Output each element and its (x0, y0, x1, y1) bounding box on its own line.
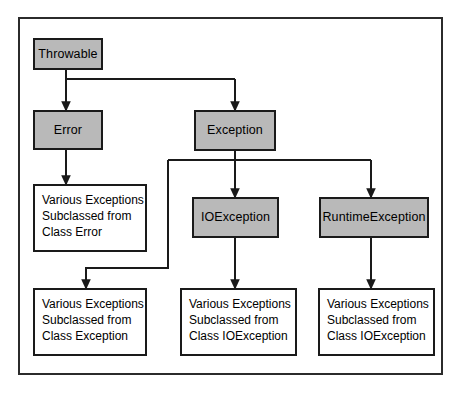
node-throwable-label: Throwable (38, 47, 97, 62)
node-runtimeexception[interactable]: RuntimeException (319, 197, 429, 238)
note-runtimeexception-line-2: Subclassed from (327, 313, 429, 329)
node-error[interactable]: Error (33, 110, 103, 150)
note-runtimeexception-line-1: Various Exceptions (327, 297, 429, 313)
node-throwable[interactable]: Throwable (33, 38, 103, 70)
node-exception[interactable]: Exception (194, 110, 276, 151)
note-exception-line-2: Subclassed from (42, 313, 144, 329)
note-exception-line-1: Various Exceptions (42, 297, 144, 313)
note-error-line-2: Subclassed from (42, 209, 144, 225)
node-exception-label: Exception (207, 123, 263, 138)
diagram-canvas: Throwable Error Exception IOException Ru… (0, 0, 460, 394)
note-exception-line-3: Class Exception (42, 329, 144, 345)
note-ioexception-line-2: Subclassed from (189, 313, 291, 329)
note-error-line-3: Class Error (42, 225, 144, 241)
note-error-line-1: Various Exceptions (42, 193, 144, 209)
note-exception[interactable]: Various Exceptions Subclassed from Class… (33, 288, 147, 356)
node-runtimeexception-label: RuntimeException (322, 210, 425, 225)
note-ioexception-line-3: Class IOException (189, 329, 291, 345)
note-ioexception[interactable]: Various Exceptions Subclassed from Class… (180, 288, 297, 356)
node-ioexception-label: IOException (201, 210, 270, 225)
node-error-label: Error (54, 123, 82, 138)
node-ioexception[interactable]: IOException (192, 197, 279, 238)
note-ioexception-line-1: Various Exceptions (189, 297, 291, 313)
note-runtimeexception-line-3: Class IOException (327, 329, 429, 345)
note-runtimeexception[interactable]: Various Exceptions Subclassed from Class… (318, 288, 435, 356)
note-error[interactable]: Various Exceptions Subclassed from Class… (33, 184, 147, 252)
